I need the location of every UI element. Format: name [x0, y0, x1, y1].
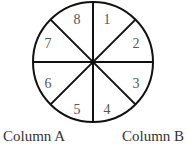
caption-column-a: Column A: [3, 128, 65, 144]
sector-label-3: 3: [133, 76, 140, 91]
sector-label-7: 7: [45, 36, 52, 51]
sector-diagram: 1 2 3 4 5 6 7 8 Column A Column B: [0, 0, 187, 145]
sector-label-5: 5: [74, 102, 81, 117]
sector-label-1: 1: [104, 12, 111, 27]
caption-column-b: Column B: [122, 128, 184, 144]
sector-label-6: 6: [45, 76, 52, 91]
sector-label-8: 8: [74, 12, 81, 27]
sector-label-2: 2: [133, 36, 140, 51]
center-point: [91, 60, 95, 64]
sector-label-4: 4: [104, 102, 111, 117]
